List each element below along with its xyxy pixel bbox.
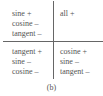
horizontal-axis (3, 41, 103, 42)
figure-caption: (b) (0, 83, 103, 93)
quadrant-top-left: sine + cosine – tangent – (12, 9, 42, 39)
quadrant-line: tangent + (12, 47, 42, 57)
quadrant-bottom-right: cosine + sine – tangent – (60, 47, 90, 77)
quadrant-line: sine + (12, 9, 42, 19)
quadrant-line: tangent – (12, 29, 42, 39)
quadrant-line: sine – (60, 57, 90, 67)
quadrant-line: all + (60, 9, 75, 19)
quadrant-top-right: all + (60, 9, 75, 19)
quadrant-line: tangent – (60, 67, 90, 77)
quadrant-line: cosine – (12, 19, 42, 29)
quadrant-line: sine – (12, 57, 42, 67)
quadrant-line: cosine + (60, 47, 90, 57)
quadrant-bottom-left: tangent + sine – cosine – (12, 47, 42, 77)
quadrant-line: cosine – (12, 67, 42, 77)
vertical-axis (53, 1, 54, 79)
